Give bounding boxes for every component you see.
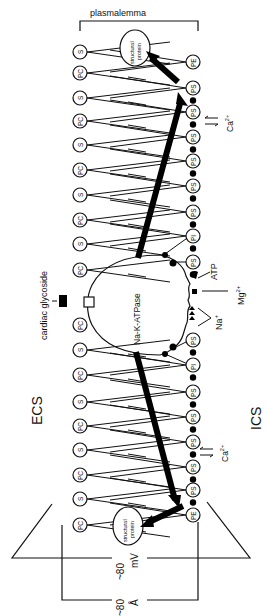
structural-protein-top: structural protein xyxy=(120,30,150,66)
outer-head-pc: PC xyxy=(73,518,87,532)
svg-text:PS: PS xyxy=(190,258,197,267)
inner-head-ps: PS xyxy=(186,130,200,144)
na-ion-icon xyxy=(189,306,195,320)
outer-head-s: S xyxy=(73,91,87,105)
outer-head-pc: PC xyxy=(73,263,87,277)
svg-text:S: S xyxy=(77,447,84,452)
atp-label: ATP xyxy=(209,263,219,280)
outer-head-pc: PC xyxy=(73,213,87,227)
svg-text:PC: PC xyxy=(77,69,84,78)
svg-text:S: S xyxy=(77,347,84,352)
outer-head-s: S xyxy=(73,395,87,409)
potential-unit: mV xyxy=(129,553,140,568)
inner-head-pe: PE xyxy=(186,508,200,522)
svg-text:Mg2+: Mg2+ xyxy=(235,285,246,305)
svg-text:PC: PC xyxy=(77,266,84,275)
outer-head-pc: PC xyxy=(73,468,87,482)
na-label: Na xyxy=(214,318,224,330)
enzyme-label: Na-K-ATPase xyxy=(132,293,142,345)
inner-head-ps: PS xyxy=(186,385,200,399)
inner-head-ps: PS xyxy=(186,435,200,449)
inner-head-ps: PS xyxy=(186,179,200,193)
inner-head-ps: PS xyxy=(186,460,200,474)
outer-head-s: S xyxy=(73,45,87,59)
cardiac-glycoside-label: cardiac glycoside xyxy=(39,271,49,340)
svg-text:PS: PS xyxy=(190,388,197,397)
binding-sites: ATP Mg2+ Na+ xyxy=(189,263,246,330)
svg-text:PS: PS xyxy=(190,133,197,142)
ics-label: ICS xyxy=(248,407,264,430)
outer-head-pc: PC xyxy=(73,368,87,382)
svg-text:PS: PS xyxy=(190,157,197,166)
outer-leaflet-heads: SPCSPCSPCSPCSPCPCSPCSPCSPCSPC xyxy=(73,45,87,532)
potential-value: ~80 xyxy=(115,563,126,580)
inner-head-ps: PS xyxy=(186,81,200,95)
svg-text:PS: PS xyxy=(190,84,197,93)
ca-equilibrium-top: Ca2+ xyxy=(205,115,235,132)
mg-charge: 2+ xyxy=(235,285,241,292)
svg-text:S: S xyxy=(77,192,84,197)
outer-head-pc: PC xyxy=(73,163,87,177)
svg-text:PS: PS xyxy=(190,108,197,117)
inner-head-pi: PI xyxy=(186,229,200,243)
svg-text:S: S xyxy=(77,95,84,100)
distance-value: ~80 xyxy=(115,599,126,616)
outer-head-s: S xyxy=(73,492,87,506)
svg-text:S: S xyxy=(77,241,84,246)
inner-head-ps: PS xyxy=(186,154,200,168)
outer-head-pc: PC xyxy=(73,66,87,80)
outer-head-s: S xyxy=(73,343,87,357)
glycoside-square-icon xyxy=(59,295,67,307)
svg-text:PI: PI xyxy=(190,235,197,241)
svg-text:PS: PS xyxy=(190,463,197,472)
inner-head-ps: PS xyxy=(186,483,200,497)
mg-ion-icon xyxy=(192,289,197,294)
distance-unit: Å xyxy=(128,599,140,606)
svg-text:PS: PS xyxy=(190,486,197,495)
plasmalemma-label: plasmalemma xyxy=(90,8,146,18)
structural-protein-bottom: structural protein xyxy=(113,507,143,545)
svg-text:S: S xyxy=(77,49,84,54)
na-charge: + xyxy=(213,314,219,318)
svg-text:PS: PS xyxy=(190,336,197,345)
svg-text:PS: PS xyxy=(190,182,197,191)
svg-text:PC: PC xyxy=(77,422,84,431)
cardiac-glycoside: cardiac glycoside xyxy=(39,271,67,340)
outer-head-pc: PC xyxy=(73,114,87,128)
svg-text:PC: PC xyxy=(77,117,84,126)
ecs-label: ECS xyxy=(29,396,45,425)
svg-text:Ca2+: Ca2+ xyxy=(219,445,230,462)
inner-head-pi: PI xyxy=(186,358,200,372)
inner-head-ps: PS xyxy=(186,410,200,424)
svg-text:PS: PS xyxy=(190,413,197,422)
svg-text:Na+: Na+ xyxy=(213,314,224,330)
outer-head-pc: PC xyxy=(73,419,87,433)
outer-head-s: S xyxy=(73,188,87,202)
svg-text:Ca2+: Ca2+ xyxy=(224,115,235,132)
outer-head-s: S xyxy=(73,237,87,251)
mg-label: Mg xyxy=(236,292,246,305)
svg-text:PS: PS xyxy=(190,208,197,217)
lipid-tails xyxy=(87,42,186,537)
outer-head-s: S xyxy=(73,138,87,152)
inner-head-pe: PE xyxy=(186,55,200,69)
svg-text:PC: PC xyxy=(77,471,84,480)
svg-text:protein: protein xyxy=(129,521,135,538)
inner-head-ps: PS xyxy=(186,333,200,347)
svg-text:structural: structural xyxy=(129,41,135,64)
svg-text:PC: PC xyxy=(77,321,84,330)
svg-text:S: S xyxy=(77,496,84,501)
svg-text:PC: PC xyxy=(77,166,84,175)
inner-head-ps: PS xyxy=(186,255,200,269)
outer-head-pc: PC xyxy=(73,318,87,332)
svg-text:PC: PC xyxy=(77,216,84,225)
svg-text:PC: PC xyxy=(77,521,84,530)
svg-text:PC: PC xyxy=(77,371,84,380)
svg-text:PS: PS xyxy=(190,438,197,447)
membrane-diagram: plasmalemma Na-K-ATPase cardiac glycosid… xyxy=(0,0,268,616)
outer-head-s: S xyxy=(73,443,87,457)
svg-text:PI: PI xyxy=(190,364,197,370)
inner-head-ps: PS xyxy=(186,105,200,119)
svg-text:S: S xyxy=(77,399,84,404)
svg-text:S: S xyxy=(77,142,84,147)
